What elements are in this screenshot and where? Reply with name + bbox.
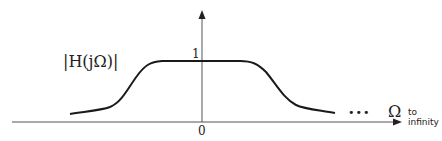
x-axis-label: Ω — [388, 102, 401, 121]
x-note-to: to — [408, 107, 417, 117]
x-note-infinity: infinity — [408, 117, 439, 127]
y-axis-arrow-icon — [199, 10, 206, 19]
y-axis-label: |H(jΩ)| — [63, 52, 118, 71]
origin-label: 0 — [198, 124, 206, 138]
continuation-dots: ••• — [348, 106, 370, 119]
y-tick-one: 1 — [192, 47, 200, 61]
